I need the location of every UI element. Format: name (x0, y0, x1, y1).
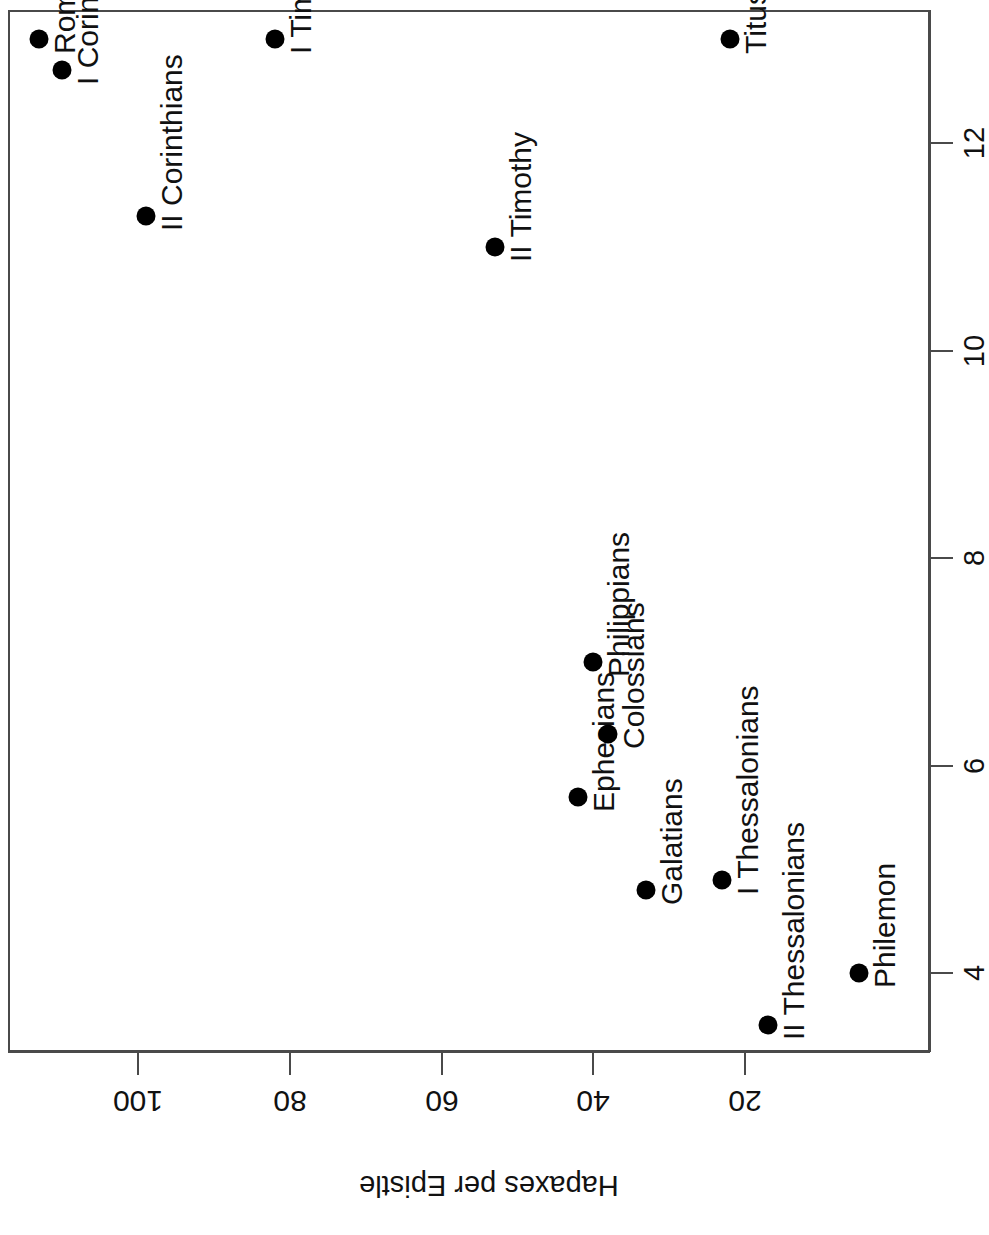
data-point (584, 652, 603, 671)
hapaxes-tick-label-40: 40 (548, 1085, 638, 1117)
data-point (713, 870, 732, 889)
data-point (569, 787, 588, 806)
hapaxes-tick-40 (592, 1053, 594, 1075)
data-point (30, 30, 49, 49)
chapters-tick-10 (931, 350, 953, 352)
chapters-tick-label-6: 6 (960, 731, 989, 801)
data-point (485, 237, 504, 256)
hapaxes-tick-label-60: 60 (397, 1085, 487, 1117)
data-point (265, 30, 284, 49)
data-point-label: Titus (741, 0, 771, 54)
data-point (849, 964, 868, 983)
data-point-label: I Corinthians (73, 0, 103, 85)
hapaxes-tick-label-20: 20 (700, 1085, 790, 1117)
data-point-label: II Timothy (506, 132, 536, 262)
hapaxes-tick-100 (137, 1053, 139, 1075)
data-point (599, 725, 618, 744)
chapters-tick-4 (931, 972, 953, 974)
hapaxes-tick-label-80: 80 (245, 1085, 335, 1117)
chapters-tick-label-8: 8 (960, 523, 989, 593)
chapters-tick-8 (931, 557, 953, 559)
data-point-label: Galatians (657, 778, 687, 905)
data-point (136, 206, 155, 225)
data-point-label: II Corinthians (157, 54, 187, 231)
hapaxes-tick-60 (441, 1053, 443, 1075)
data-point (758, 1015, 777, 1034)
data-point-label: Philemon (870, 863, 900, 988)
data-point (637, 881, 656, 900)
hapaxes-axis-line (8, 1051, 930, 1053)
data-point-label: II Thessalonians (779, 822, 809, 1040)
chapters-axis-line (929, 10, 931, 1052)
data-point (720, 30, 739, 49)
y-axis-title: Hapaxes per Epistle (0, 1168, 978, 1204)
data-point-label: I Timothy (286, 0, 316, 54)
data-point (53, 61, 72, 80)
data-point-label: I Thessalonians (733, 685, 763, 895)
chapters-tick-12 (931, 142, 953, 144)
data-point-label: Colossians (619, 603, 649, 750)
chapters-tick-label-12: 12 (960, 108, 989, 178)
hapaxes-tick-80 (289, 1053, 291, 1075)
chapters-tick-6 (931, 765, 953, 767)
chapters-tick-label-10: 10 (960, 316, 989, 386)
hapaxes-tick-label-100: 100 (93, 1085, 183, 1117)
hapaxes-tick-20 (744, 1053, 746, 1075)
chapters-tick-label-4: 4 (960, 938, 989, 1008)
